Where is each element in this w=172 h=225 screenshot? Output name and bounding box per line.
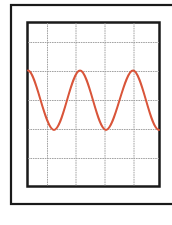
oscilloscope-diagram xyxy=(0,0,172,225)
